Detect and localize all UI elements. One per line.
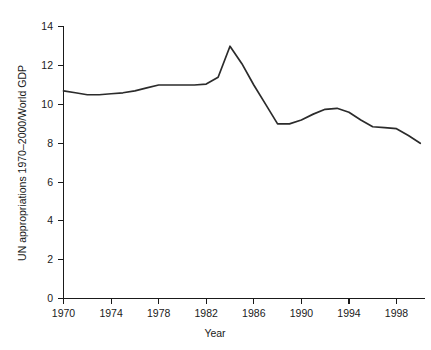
x-tick-label: 1982: [195, 307, 219, 319]
x-tick-label: 1990: [290, 307, 314, 319]
x-tick-labels: 1970 1974 1978 1982 1986 1990 1994 1998: [52, 307, 409, 319]
x-tick-label: 1998: [385, 307, 409, 319]
y-tick-label: 2: [47, 253, 53, 265]
y-tick-label: 14: [41, 20, 53, 32]
y-tick-label: 4: [47, 214, 53, 226]
line-chart: 0 2 4 6 8 10 12 14 1970 1974 1978 1982 1: [0, 0, 431, 350]
y-tick-label: 10: [41, 98, 53, 110]
x-tick-label: 1986: [242, 307, 266, 319]
x-tick-label: 1978: [147, 307, 171, 319]
x-axis-title: Year: [204, 327, 226, 339]
y-axis-title: UN appropriations 1970–2000/World GDP: [16, 65, 28, 261]
x-tick-label: 1994: [337, 307, 361, 319]
data-series-line: [64, 46, 421, 143]
y-tick-label: 0: [47, 292, 53, 304]
chart-figure: 0 2 4 6 8 10 12 14 1970 1974 1978 1982 1: [0, 0, 431, 350]
y-tick-label: 6: [47, 176, 53, 188]
y-tick-marks: [58, 27, 64, 299]
x-tick-marks: [64, 299, 397, 305]
x-tick-label: 1974: [99, 307, 123, 319]
y-tick-label: 8: [47, 137, 53, 149]
y-tick-label: 12: [41, 59, 53, 71]
y-tick-labels: 0 2 4 6 8 10 12 14: [41, 20, 53, 304]
x-tick-label: 1970: [52, 307, 76, 319]
